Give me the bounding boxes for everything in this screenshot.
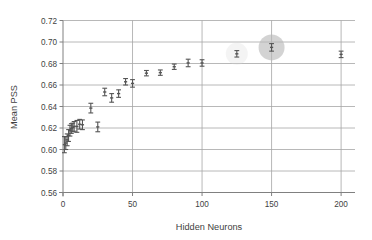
y-tick-label: 0.70: [41, 38, 57, 47]
x-tick-label: 50: [128, 200, 138, 209]
chart-background: [0, 0, 372, 240]
y-tick-label: 0.72: [41, 17, 57, 26]
x-tick-label: 150: [265, 200, 279, 209]
x-axis-title: Hidden Neurons: [176, 222, 243, 232]
y-tick-label: 0.62: [41, 124, 57, 133]
y-axis-title: Mean PSS: [9, 85, 19, 129]
scatter-plot: 0.560.580.600.620.640.660.680.700.72 050…: [0, 0, 372, 240]
y-tick-label: 0.64: [41, 103, 57, 112]
y-tick-label: 0.56: [41, 189, 57, 198]
x-tick-label: 200: [334, 200, 348, 209]
x-tick-label: 0: [61, 200, 66, 209]
y-tick-label: 0.68: [41, 60, 57, 69]
y-tick-label: 0.66: [41, 81, 57, 90]
y-tick-label: 0.58: [41, 167, 57, 176]
x-tick-label: 100: [195, 200, 209, 209]
chart-figure: 0.560.580.600.620.640.660.680.700.72 050…: [0, 0, 372, 240]
y-axis-tick-labels: 0.560.580.600.620.640.660.680.700.72: [41, 17, 57, 198]
y-tick-label: 0.60: [41, 146, 57, 155]
